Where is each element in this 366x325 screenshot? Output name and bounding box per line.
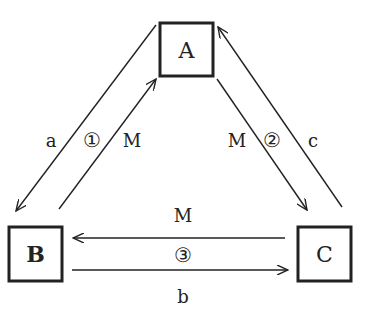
step-1-marker: ① bbox=[83, 128, 101, 152]
edge-b-to-c-label: b bbox=[177, 286, 189, 307]
edge-b-to-a bbox=[59, 79, 156, 209]
node-b-label: B bbox=[26, 241, 45, 267]
node-b: B bbox=[9, 227, 62, 281]
node-a-label: A bbox=[178, 38, 196, 63]
step-2-marker: ② bbox=[263, 128, 281, 152]
node-c: C bbox=[298, 227, 351, 281]
edge-b-to-a-label: M bbox=[123, 130, 141, 151]
node-c-label: C bbox=[316, 242, 333, 267]
edge-c-to-b-label: M bbox=[174, 205, 192, 226]
node-a: A bbox=[160, 23, 213, 76]
step-3-marker: ③ bbox=[174, 243, 192, 267]
edge-a-to-b bbox=[16, 25, 156, 211]
edge-a-to-c-label: M bbox=[228, 130, 246, 151]
edge-c-to-a bbox=[218, 27, 342, 207]
edge-a-to-b-label: a bbox=[46, 130, 57, 151]
diagram-canvas: A B C a ① M M ② c M ③ b bbox=[0, 0, 366, 325]
edge-c-to-a-label: c bbox=[308, 130, 318, 151]
